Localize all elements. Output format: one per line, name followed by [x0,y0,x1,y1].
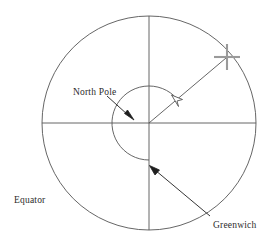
equator-label: Equator [14,195,46,205]
greenwich-label: Greenwich [213,220,257,230]
longitude-diagram: North Pole Equator Greenwich [0,0,279,244]
figure-canvas: North Pole Equator Greenwich [0,0,279,244]
arc-direction-arrowhead [172,95,183,107]
location-cross-marker [214,44,240,70]
greenwich-arrow [150,166,211,217]
meridian-radius [149,58,226,123]
north-pole-label: North Pole [73,87,116,97]
